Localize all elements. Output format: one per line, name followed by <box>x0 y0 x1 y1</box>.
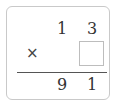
answer-input-box[interactable] <box>79 41 104 66</box>
product-ones-digit: 1 <box>87 77 97 93</box>
multiplicand-tens-digit: 1 <box>57 21 67 37</box>
sum-line <box>17 72 107 73</box>
multiplicand-ones-digit: 3 <box>87 21 97 37</box>
product-tens-digit: 9 <box>57 77 67 93</box>
multiply-sign: × <box>26 45 39 61</box>
